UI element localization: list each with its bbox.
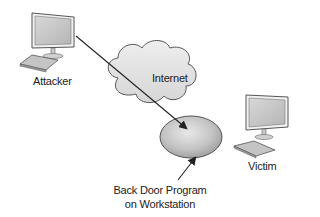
victim-label: Victim — [248, 160, 277, 172]
backdoor-pointer-arrow — [178, 158, 195, 180]
backdoor-label-line2: on Workstation — [113, 197, 206, 211]
internet-label: Internet — [152, 72, 188, 84]
backdoor-label-line1: Back Door Program — [113, 183, 206, 197]
attacker-label: Attacker — [33, 75, 72, 87]
attacker-computer-icon — [20, 13, 74, 72]
victim-computer-icon — [234, 95, 288, 158]
backdoor-label: Back Door Program on Workstation — [113, 183, 206, 211]
ellipse-disk-icon — [160, 116, 222, 158]
